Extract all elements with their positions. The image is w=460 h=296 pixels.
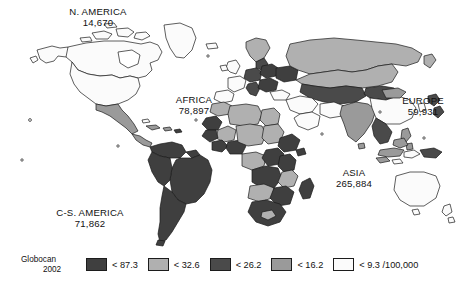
- region-label-n-america: N. AMERICA 14,670: [48, 7, 148, 28]
- region-value-cs-america: 71,862: [30, 219, 150, 230]
- legend-label-3: < 26.2: [236, 260, 262, 270]
- legend: Globocan 2002 < 87.3 < 32.6 < 26.2 < 16.…: [0, 252, 460, 296]
- world-map: .c { stroke:#1a1a1a; stroke-width:0.7; s…: [0, 0, 460, 248]
- legend-swatch-1: [86, 258, 107, 271]
- region-label-asia: ASIA 265,884: [316, 168, 392, 189]
- region-label-europe: EUROPE 59,931: [390, 96, 456, 117]
- legend-label-2: < 32.6: [174, 260, 200, 270]
- region-value-n-america: 14,670: [48, 18, 148, 29]
- region-value-africa: 78,897: [150, 106, 238, 117]
- legend-label-1: < 87.3: [112, 260, 138, 270]
- legend-item-4: < 16.2: [271, 258, 323, 271]
- legend-source-year: 2002: [21, 265, 83, 275]
- legend-item-2: < 32.6: [148, 258, 200, 271]
- region-value-europe: 59,931: [390, 107, 456, 118]
- legend-label-4: < 16.2: [297, 260, 323, 270]
- legend-items: < 87.3 < 32.6 < 26.2 < 16.2 < 9.3 /100,0…: [86, 258, 418, 271]
- legend-item-3: < 26.2: [210, 258, 262, 271]
- region-label-africa: AFRICA 78,897: [150, 95, 238, 116]
- figure-root: .c { stroke:#1a1a1a; stroke-width:0.7; s…: [0, 0, 460, 296]
- legend-source-name: Globocan: [21, 255, 83, 265]
- legend-swatch-3: [210, 258, 231, 271]
- legend-item-1: < 87.3: [86, 258, 138, 271]
- legend-label-5: < 9.3 /100,000: [359, 260, 418, 270]
- region-label-cs-america: C-S. AMERICA 71,862: [30, 208, 150, 229]
- legend-swatch-4: [271, 258, 292, 271]
- legend-swatch-5: [333, 258, 354, 271]
- legend-swatch-2: [148, 258, 169, 271]
- region-value-asia: 265,884: [316, 179, 392, 190]
- legend-item-5: < 9.3 /100,000: [333, 258, 418, 271]
- legend-source: Globocan 2002: [21, 255, 83, 276]
